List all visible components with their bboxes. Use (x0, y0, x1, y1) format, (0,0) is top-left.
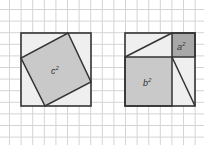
left-figure: c2 (21, 33, 91, 106)
pythagoras-diagram: c2 a2 b2 (0, 0, 204, 145)
right-figure: a2 b2 (125, 33, 195, 106)
